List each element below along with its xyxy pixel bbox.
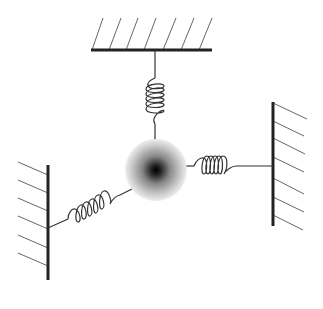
top-spring (146, 50, 164, 140)
mass-ball (125, 139, 187, 201)
right-wall (273, 102, 307, 230)
mass-spring-diagram (0, 0, 323, 309)
right-wall-hatching (273, 103, 307, 230)
diagram-canvas (0, 0, 323, 309)
right-spring (180, 156, 273, 174)
left-wall (18, 162, 48, 280)
top-wall-hatching (92, 18, 212, 50)
left-spring (48, 188, 134, 228)
left-wall-hatching (18, 162, 48, 266)
top-wall (91, 18, 212, 50)
